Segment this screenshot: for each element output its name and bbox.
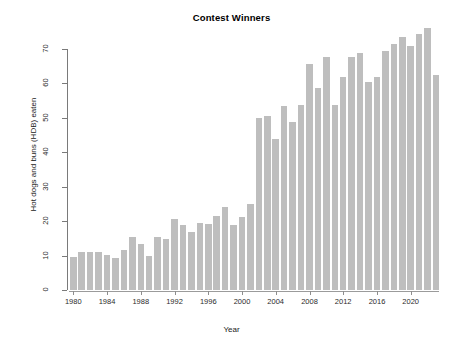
x-axis-tick xyxy=(208,291,209,295)
bar xyxy=(374,77,381,290)
x-axis-tick-label: 2016 xyxy=(369,297,386,306)
x-axis-tick-label: 1988 xyxy=(132,297,149,306)
bar xyxy=(433,75,440,290)
bar xyxy=(340,77,347,290)
bar xyxy=(197,223,204,290)
bar xyxy=(188,232,195,290)
bar xyxy=(78,252,85,290)
bar xyxy=(138,244,145,290)
x-axis-tick xyxy=(411,291,412,295)
x-axis-tick xyxy=(107,291,108,295)
bar xyxy=(112,258,119,290)
x-axis-tick xyxy=(73,291,74,295)
x-axis-tick xyxy=(310,291,311,295)
bar xyxy=(222,207,229,290)
x-axis-tick-label: 2000 xyxy=(234,297,251,306)
bar xyxy=(205,224,212,290)
bar xyxy=(289,122,296,290)
bar xyxy=(129,237,136,290)
bar xyxy=(382,51,389,290)
x-axis-tick xyxy=(175,291,176,295)
bar xyxy=(348,57,355,290)
x-axis-tick-label: 2020 xyxy=(402,297,419,306)
x-axis-tick-label: 1996 xyxy=(200,297,217,306)
bar xyxy=(264,116,271,290)
bar xyxy=(323,57,330,290)
bar xyxy=(121,250,128,290)
x-axis-title: Year xyxy=(0,325,463,334)
bar xyxy=(332,105,339,290)
x-axis-tick xyxy=(242,291,243,295)
bar xyxy=(416,34,423,291)
y-axis-tick-label: 70 xyxy=(25,44,65,53)
bar xyxy=(247,204,254,290)
x-axis-line xyxy=(69,291,439,292)
bar xyxy=(315,88,322,290)
bar xyxy=(399,37,406,290)
bar xyxy=(87,252,94,290)
chart-root: Contest Winners 010203040506070198019841… xyxy=(0,0,463,352)
plot-area: 0102030405060701980198419881992199620002… xyxy=(0,0,463,352)
bar xyxy=(154,237,161,290)
bar xyxy=(104,255,111,290)
x-axis-tick-label: 2008 xyxy=(301,297,318,306)
y-axis-tick-label: 10 xyxy=(25,251,65,260)
x-axis-tick xyxy=(141,291,142,295)
bar xyxy=(163,239,170,290)
bar xyxy=(357,53,364,290)
bar xyxy=(213,216,220,290)
bar xyxy=(171,219,178,290)
bar xyxy=(70,257,77,290)
x-axis-tick-label: 2012 xyxy=(335,297,352,306)
bar xyxy=(391,44,398,290)
y-axis-title: Hot dogs and buns (HDB) eaten xyxy=(29,60,38,250)
bar xyxy=(407,46,414,290)
bar xyxy=(95,252,102,290)
bar xyxy=(146,256,153,290)
x-axis-tick xyxy=(343,291,344,295)
bar xyxy=(365,82,372,290)
bar xyxy=(298,105,305,290)
x-axis-tick xyxy=(377,291,378,295)
x-axis-tick xyxy=(276,291,277,295)
bar xyxy=(306,64,313,290)
bar xyxy=(239,217,246,290)
bar xyxy=(230,225,237,290)
x-axis-tick-label: 2004 xyxy=(267,297,284,306)
y-axis-tick-label: 0 xyxy=(25,285,65,294)
bar xyxy=(180,225,187,290)
bar xyxy=(256,118,263,290)
bar xyxy=(281,106,288,290)
bar xyxy=(424,28,431,290)
y-axis-line xyxy=(67,49,68,290)
x-axis-tick-label: 1984 xyxy=(99,297,116,306)
bar xyxy=(272,139,279,291)
x-axis-tick-label: 1992 xyxy=(166,297,183,306)
x-axis-tick-label: 1980 xyxy=(65,297,82,306)
